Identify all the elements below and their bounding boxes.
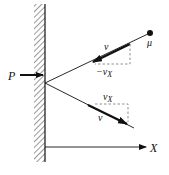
diagram-canvas: P μ v −vX vX v X xyxy=(0,0,169,175)
incident-path: μ v −vX xyxy=(45,30,153,83)
force-label: P xyxy=(7,69,16,83)
x-axis-label: X xyxy=(149,141,158,155)
x-axis: X xyxy=(45,141,158,155)
wall xyxy=(34,4,45,162)
reflected-velocity-arrow-icon xyxy=(88,105,127,124)
wall-hatching xyxy=(34,4,45,162)
incident-velocity-arrow-icon xyxy=(93,44,130,62)
particle-label: μ xyxy=(146,37,152,48)
incident-x-component-label: −vX xyxy=(96,66,113,79)
incident-velocity-label: v xyxy=(104,41,109,52)
reflected-path: vX v xyxy=(45,83,134,128)
particle-dot-icon xyxy=(147,30,153,36)
reflected-x-component-label: vX xyxy=(103,91,113,104)
reflected-velocity-label: v xyxy=(98,112,103,123)
